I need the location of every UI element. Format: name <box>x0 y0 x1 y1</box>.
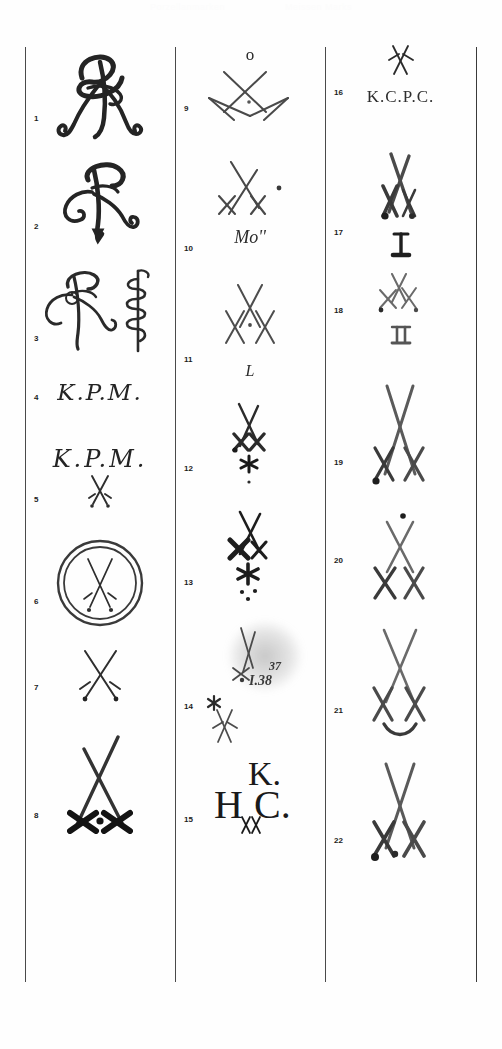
mark-glyph-12 <box>175 400 325 488</box>
crossed-swords-7-icon <box>69 647 131 709</box>
mark-glyph-18 <box>325 272 476 346</box>
mark-entry-11[interactable]: 11 L <box>175 277 325 392</box>
crossed-swords-star-12-icon <box>220 400 280 488</box>
mark-glyph-22 <box>325 760 476 870</box>
mark-glyph-4: K.P.M. <box>25 381 175 404</box>
inscription-10: Mo'' <box>234 228 266 246</box>
crossed-swords-5-icon <box>80 474 120 510</box>
mark-glyph-20 <box>325 510 476 604</box>
crossed-swords-9-icon <box>204 68 296 130</box>
roman-numeral-two-18-icon <box>387 324 415 346</box>
crossed-swords-19-icon <box>359 382 443 494</box>
column-3: 16 K.C.P.C. 17 <box>325 40 476 874</box>
mark-glyph-11: L <box>175 281 325 379</box>
column-rule-right <box>476 47 477 982</box>
mark-glyph-3 <box>25 263 175 363</box>
crossed-swords-8-icon <box>58 727 142 837</box>
crossed-swords-star-13-icon <box>218 508 282 604</box>
crossed-swords-10-icon <box>207 158 293 220</box>
letter-o-9: o <box>246 46 255 63</box>
crossed-swords-18-icon <box>370 272 432 320</box>
crossed-swords-17-icon <box>369 150 433 226</box>
mark-glyph-13 <box>175 508 325 604</box>
crossed-swords-dot-20-icon <box>361 510 441 604</box>
mark-entry-7[interactable]: 7 <box>25 639 175 723</box>
mark-glyph-6 <box>25 535 175 631</box>
mark-entry-1[interactable]: 1 <box>25 40 175 152</box>
mark-entry-4[interactable]: 4 K.P.M. <box>25 371 175 443</box>
mark-entry-15[interactable]: 15 K. H C. <box>175 743 325 848</box>
plate-page: Porzellanmarken Meissen Marks 1 <box>0 0 502 1049</box>
mark-entry-8[interactable]: 8 <box>25 723 175 843</box>
entry-number-14: 14 <box>184 702 193 711</box>
mark-glyph-1 <box>25 44 175 148</box>
mark-entry-3[interactable]: 3 <box>25 259 175 371</box>
mark-glyph-21 <box>325 626 476 742</box>
roman-numeral-one-17-icon <box>388 230 414 260</box>
mark-entry-6[interactable]: 6 <box>25 531 175 639</box>
crossed-swords-22-icon <box>358 760 444 870</box>
swords-in-circle-6-icon <box>52 535 148 631</box>
mark-entry-18[interactable]: 18 <box>325 268 476 376</box>
small-crossed-swords-14-icon <box>207 708 243 748</box>
column-2: 9 o 10 <box>175 40 325 848</box>
number-i38-14: I.38 <box>249 674 272 688</box>
ar-monogram-1-icon <box>48 44 152 148</box>
watermark-left-text: Porzellanmarken <box>150 2 225 12</box>
mark-entry-5[interactable]: 5 K.P.M. <box>25 443 175 531</box>
number-37-14: 37 <box>269 660 281 672</box>
mark-glyph-19 <box>325 382 476 494</box>
ar-monogram-serpent-3-icon <box>38 263 162 363</box>
crossed-swords-16-icon <box>381 44 421 78</box>
mark-glyph-17 <box>325 150 476 260</box>
mark-glyph-2 <box>25 154 175 252</box>
tiny-crossed-swords-15-icon <box>238 815 264 837</box>
ar-monogram-2-icon <box>48 154 152 252</box>
kpm-script-4: K.P.M. <box>57 381 142 404</box>
mark-glyph-7 <box>25 647 175 709</box>
mark-glyph-16: K.C.P.C. <box>325 44 476 105</box>
inscription-kcpc-16: K.C.P.C. <box>367 88 435 105</box>
mark-glyph-8 <box>25 727 175 837</box>
mark-entry-10[interactable]: 10 Mo'' <box>175 152 325 277</box>
crossed-swords-11-icon <box>212 281 288 353</box>
mark-glyph-14: 37 I.38 <box>197 624 315 736</box>
header-watermark: Porzellanmarken Meissen Marks <box>0 0 502 14</box>
mark-entry-2[interactable]: 2 <box>25 152 175 259</box>
kpm-script-5: K.P.M. <box>53 447 148 471</box>
column-1: 1 2 <box>25 40 175 843</box>
mark-entry-13[interactable]: 13 <box>175 500 325 618</box>
watermark-right-text: Meissen Marks <box>285 2 352 12</box>
mark-glyph-10: Mo'' <box>175 158 325 246</box>
crossed-swords-arc-21-icon <box>358 626 444 742</box>
mark-entry-14[interactable]: 14 37 I.38 <box>175 618 325 743</box>
mark-glyph-9: o <box>175 46 325 130</box>
mark-glyph-15: K. H C. <box>175 757 325 837</box>
mark-entry-17[interactable]: 17 <box>325 146 476 268</box>
mark-entry-12[interactable]: 12 <box>175 392 325 500</box>
mark-entry-20[interactable]: 20 <box>325 504 476 622</box>
mark-entry-9[interactable]: 9 o <box>175 40 325 152</box>
mark-entry-19[interactable]: 19 <box>325 376 476 504</box>
mark-entry-16[interactable]: 16 K.C.P.C. <box>325 40 476 146</box>
mark-glyph-5: K.P.M. <box>25 447 175 510</box>
mark-entry-22[interactable]: 22 <box>325 750 476 874</box>
inscription-11: L <box>246 363 255 379</box>
mark-entry-21[interactable]: 21 <box>325 622 476 750</box>
